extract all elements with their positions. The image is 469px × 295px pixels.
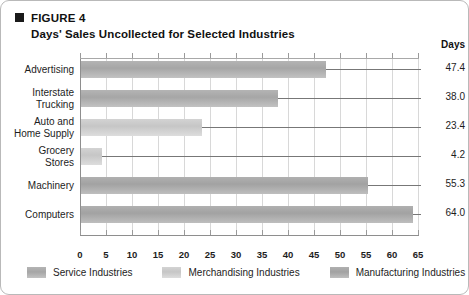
category-label: InterstateTrucking [0,87,74,110]
value-leader-line [326,69,421,70]
legend-item: Service Industries [27,267,132,278]
value-label: 47.4 [425,62,465,73]
bar [81,177,368,194]
value-label: 23.4 [425,120,465,131]
plot-region: Advertising47.4InterstateTrucking38.0Aut… [1,53,469,249]
category-label: Machinery [0,180,74,192]
bar-row: Auto andHome Supply23.4 [1,114,469,142]
category-label-line1: Machinery [0,180,74,192]
bars-layer: Advertising47.4InterstateTrucking38.0Aut… [1,53,469,249]
bar-row: Computers64.0 [1,201,469,229]
category-label-line2: Trucking [0,99,74,111]
value-label: 4.2 [425,149,465,160]
figure-title-line: FIGURE 4 [15,10,468,25]
legend-item: Manufacturing Industries [330,267,466,278]
category-label-line1: Interstate [0,87,74,99]
chart-legend: Service IndustriesMerchandising Industri… [1,263,469,281]
bar [81,61,326,78]
value-leader-line [413,214,421,215]
bar-row: InterstateTrucking38.0 [1,85,469,113]
value-leader-line [368,185,421,186]
category-label: GroceryStores [0,145,74,168]
category-label: Advertising [0,64,74,76]
bar-row: Machinery55.3 [1,172,469,200]
figure-panel: FIGURE 4 Days' Sales Uncollected for Sel… [0,0,469,295]
category-label: Auto andHome Supply [0,116,74,139]
black-square-bullet-icon [15,13,24,22]
figure-number-label: FIGURE 4 [31,12,86,24]
x-tick-label-65: 65 [403,249,433,260]
x-axis-tick-labels: 05101520253035404550556065 [1,249,469,263]
value-label: 64.0 [425,207,465,218]
category-label-line2: Stores [0,157,74,169]
value-label: 38.0 [425,91,465,102]
category-label-line1: Computers [0,209,74,221]
value-column-header: Days [425,39,465,50]
bar [81,119,202,136]
figure-subtitle: Days' Sales Uncollected for Selected Ind… [31,28,468,40]
bar [81,206,413,223]
bar [81,148,102,165]
value-leader-line [202,127,421,128]
category-label-line1: Advertising [0,64,74,76]
legend-label: Manufacturing Industries [356,267,466,278]
legend-swatch-icon [162,267,181,278]
category-label-line1: Grocery [0,145,74,157]
bar [81,90,278,107]
value-leader-line [102,156,421,157]
legend-label: Service Industries [53,267,132,278]
legend-swatch-icon [27,267,46,278]
category-label-line1: Auto and [0,116,74,128]
legend-label: Merchandising Industries [188,267,299,278]
legend-item: Merchandising Industries [162,267,299,278]
value-label: 55.3 [425,178,465,189]
category-label-line2: Home Supply [0,128,74,140]
value-leader-line [278,98,421,99]
bar-row: Advertising47.4 [1,56,469,84]
figure-header: FIGURE 4 Days' Sales Uncollected for Sel… [1,1,468,40]
bar-row: GroceryStores4.2 [1,143,469,171]
category-label: Computers [0,209,74,221]
legend-swatch-icon [330,267,349,278]
